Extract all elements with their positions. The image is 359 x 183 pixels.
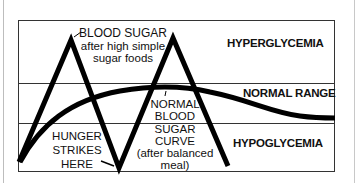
normal-curve-pointer bbox=[165, 91, 166, 96]
hunger-line1: HUNGER bbox=[50, 129, 104, 143]
hunger-annotation: HUNGER STRIKES HERE bbox=[50, 129, 104, 171]
hunger-line3: HERE bbox=[50, 157, 104, 171]
normal-range-label: NORMAL RANGE bbox=[243, 87, 336, 99]
high-sugar-line3: sugar foods bbox=[78, 52, 168, 65]
normal-curve-line6: meal) bbox=[133, 159, 217, 171]
normal-curve-line1: NORMAL bbox=[133, 98, 217, 110]
normal-curve-line3: SUGAR bbox=[133, 123, 217, 135]
hunger-line2: STRIKES bbox=[50, 143, 104, 157]
high-sugar-line2: after high simple bbox=[78, 40, 168, 53]
hypoglycemia-label: HYPOGLYCEMIA bbox=[233, 137, 323, 149]
normal-curve-annotation: NORMAL BLOOD SUGAR CURVE (after balanced… bbox=[133, 98, 217, 172]
hyperglycemia-label: HYPERGLYCEMIA bbox=[227, 37, 324, 49]
normal-curve-line4: CURVE bbox=[133, 135, 217, 147]
normal-curve-line5: (after balanced bbox=[133, 147, 217, 159]
normal-curve-line2: BLOOD bbox=[133, 110, 217, 122]
high-sugar-line1: BLOOD SUGAR bbox=[78, 27, 168, 40]
high-sugar-annotation: BLOOD SUGAR after high simple sugar food… bbox=[78, 27, 168, 65]
